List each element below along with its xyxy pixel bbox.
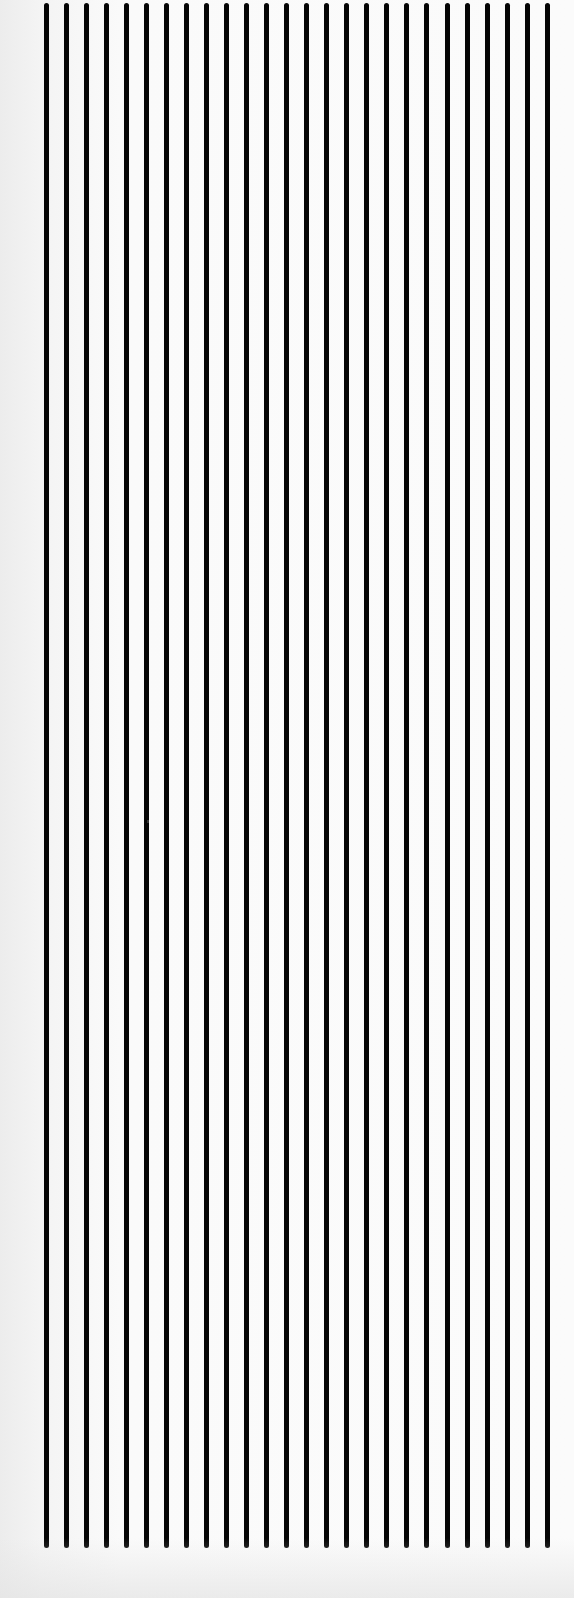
vertical-line — [44, 3, 49, 1548]
vertical-line — [445, 3, 450, 1548]
paper-shadow — [0, 1538, 574, 1598]
line-pattern — [0, 0, 574, 1598]
vertical-line — [264, 3, 269, 1548]
vertical-line — [284, 3, 289, 1548]
vertical-line — [384, 3, 389, 1548]
vertical-line — [465, 3, 470, 1548]
vertical-line — [124, 3, 129, 1548]
vertical-line — [144, 3, 149, 1548]
vertical-line — [525, 3, 530, 1548]
vertical-line — [404, 3, 409, 1548]
vertical-line — [344, 3, 349, 1548]
vertical-line — [164, 3, 169, 1548]
vertical-line — [364, 3, 369, 1548]
vertical-line — [545, 3, 550, 1548]
vertical-line — [244, 3, 249, 1548]
vertical-line — [304, 3, 309, 1548]
vertical-line — [505, 3, 510, 1548]
vertical-line — [104, 3, 109, 1548]
vertical-line — [184, 3, 189, 1548]
vertical-line — [324, 3, 329, 1548]
vertical-line — [204, 3, 209, 1548]
vertical-line — [64, 3, 69, 1548]
vertical-line — [485, 3, 490, 1548]
vertical-line — [424, 3, 429, 1548]
vertical-line — [224, 3, 229, 1548]
scan-speck — [147, 820, 149, 823]
vertical-line — [84, 3, 89, 1548]
